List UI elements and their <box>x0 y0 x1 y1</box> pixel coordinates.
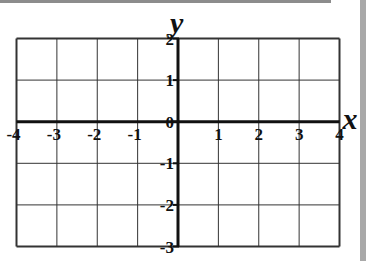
y-tick-label: -2 <box>160 196 174 215</box>
x-tick-labels: -4-3-2-11234 <box>6 125 344 144</box>
x-tick-label: 3 <box>295 125 304 144</box>
axes <box>17 39 340 247</box>
y-tick-labels: 210-1-2-3 <box>160 30 174 257</box>
x-tick-label: 2 <box>255 125 264 144</box>
x-tick-label: -2 <box>87 125 101 144</box>
x-axis-label: x <box>342 102 358 135</box>
y-axis-label: y <box>167 6 184 39</box>
x-tick-label: -3 <box>47 125 61 144</box>
y-tick-label: 1 <box>166 71 175 90</box>
y-tick-label: -1 <box>160 154 174 173</box>
y-tick-label: -3 <box>160 238 174 257</box>
coordinate-plane: -4-3-2-11234 210-1-2-3 x y <box>0 0 366 261</box>
x-tick-label: -1 <box>128 125 142 144</box>
x-tick-label: -4 <box>6 125 21 144</box>
x-tick-label: 1 <box>214 125 223 144</box>
y-tick-label: 0 <box>166 113 175 132</box>
